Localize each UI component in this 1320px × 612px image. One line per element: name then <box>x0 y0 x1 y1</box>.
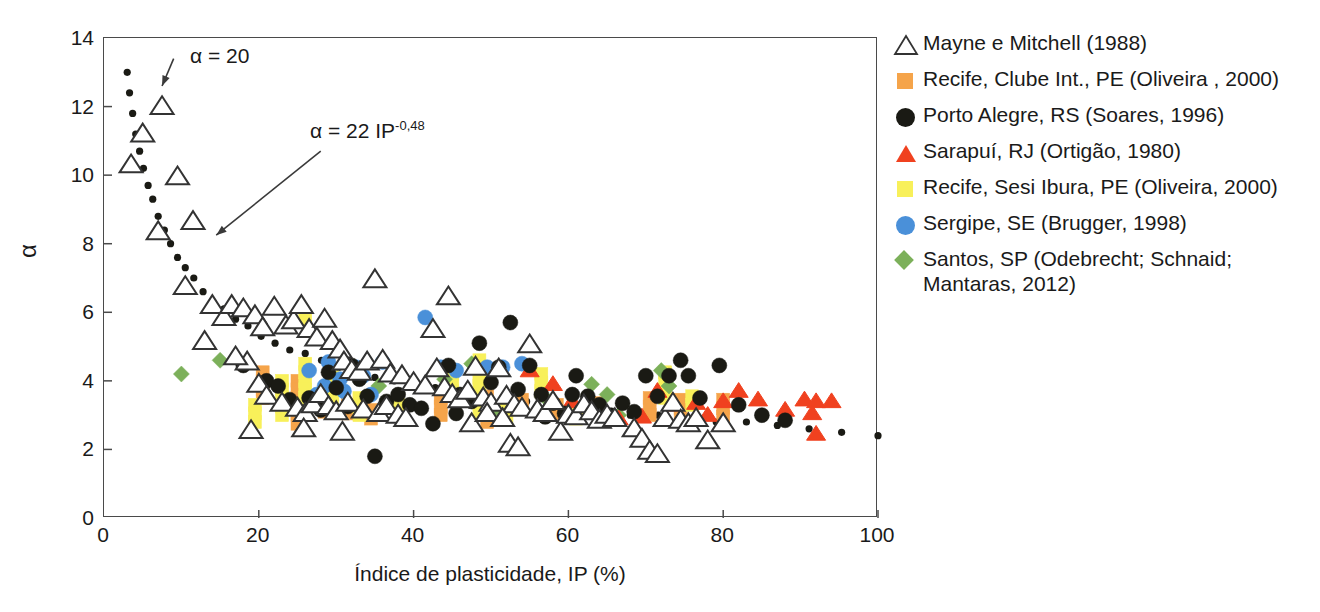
y-tick-label: 8 <box>54 233 94 254</box>
y-axis-tick-labels: 02468101214 <box>48 0 94 612</box>
legend-marker-square-icon <box>893 67 919 93</box>
legend-item-label: Santos, SP (Odebrecht; Schnaid; Mantaras… <box>923 246 1313 296</box>
legend-marker-circle-icon <box>893 103 919 129</box>
legend-item-label: Recife, Sesi Ibura, PE (Oliveira, 2000) <box>923 174 1278 199</box>
legend-item[interactable]: Recife, Clube Int., PE (Oliveira , 2000) <box>893 66 1313 93</box>
legend: Mayne e Mitchell (1988)Recife, Clube Int… <box>893 30 1313 305</box>
equation-base: α = 22 IP <box>310 119 395 142</box>
x-tick-label: 100 <box>847 524 907 545</box>
legend-item[interactable]: Sergipe, SE (Brugger, 1998) <box>893 210 1313 237</box>
plot-area <box>103 37 877 517</box>
y-tick-label: 6 <box>54 301 94 322</box>
legend-item-label: Sarapuí, RJ (Ortigão, 1980) <box>923 138 1181 163</box>
x-tick-label: 60 <box>537 524 597 545</box>
y-tick-label: 12 <box>54 96 94 117</box>
legend-marker-square-icon <box>893 175 919 201</box>
x-tick-label: 40 <box>383 524 443 545</box>
legend-item[interactable]: Mayne e Mitchell (1988) <box>893 30 1313 57</box>
legend-item-label: Recife, Clube Int., PE (Oliveira , 2000) <box>923 66 1279 91</box>
y-tick-label: 2 <box>54 438 94 459</box>
legend-marker-triangle-filled-icon <box>893 139 919 165</box>
y-tick-label: 14 <box>54 27 94 48</box>
legend-item-label: Porto Alegre, RS (Soares, 1996) <box>923 102 1224 127</box>
legend-item-label: Sergipe, SE (Brugger, 1998) <box>923 210 1187 235</box>
x-axis-title: Índice de plasticidade, IP (%) <box>103 562 877 586</box>
legend-item[interactable]: Porto Alegre, RS (Soares, 1996) <box>893 102 1313 129</box>
legend-marker-circle-icon <box>893 211 919 237</box>
equation-exponent: -0,48 <box>395 118 425 133</box>
legend-item[interactable]: Sarapuí, RJ (Ortigão, 1980) <box>893 138 1313 165</box>
x-axis-tick-labels: 020406080100 <box>103 524 877 554</box>
y-axis-title: α <box>14 244 42 258</box>
legend-item[interactable]: Recife, Sesi Ibura, PE (Oliveira, 2000) <box>893 174 1313 201</box>
legend-item[interactable]: Santos, SP (Odebrecht; Schnaid; Mantaras… <box>893 246 1313 296</box>
annotation-arrows-layer <box>104 38 878 518</box>
figure-root: 02468101214 α α = 20 α = 22 IP-0,48 0204… <box>0 0 1320 612</box>
legend-item-label: Mayne e Mitchell (1988) <box>923 30 1147 55</box>
legend-marker-diamond-icon <box>893 247 919 273</box>
x-tick-label: 80 <box>692 524 752 545</box>
y-tick-label: 4 <box>54 370 94 391</box>
annotation-alpha-20: α = 20 <box>190 44 249 68</box>
x-tick-label: 20 <box>228 524 288 545</box>
annotation-equation: α = 22 IP-0,48 <box>310 118 425 143</box>
x-tick-label: 0 <box>73 524 133 545</box>
y-tick-label: 10 <box>54 164 94 185</box>
legend-marker-triangle-open-icon <box>893 31 919 57</box>
